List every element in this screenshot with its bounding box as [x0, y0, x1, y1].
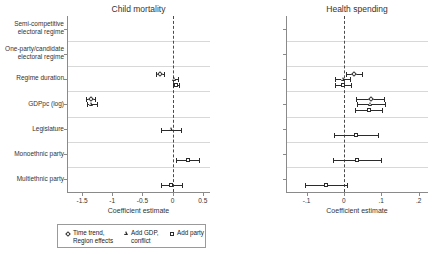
triangle-marker-icon [368, 102, 372, 106]
y-axis-line [286, 16, 287, 192]
confidence-interval-cap [181, 128, 182, 133]
category-label-1: One-party/candidate electoral regime [0, 45, 64, 61]
square-marker-icon [341, 83, 345, 87]
y-tick [64, 79, 67, 80]
confidence-interval-cap [346, 72, 347, 77]
square-marker-icon [354, 133, 358, 137]
triangle-marker-icon [169, 127, 173, 131]
x-tick [203, 193, 204, 196]
plot-area-child-mortality: -1.5-1-0.500.5 [67, 16, 210, 192]
xaxis-title-right: Coefficient estimate [286, 207, 428, 214]
confidence-interval-cap [384, 97, 385, 102]
x-tick [381, 193, 382, 196]
y-axis-line [67, 16, 68, 192]
category-label-3: GDPpc (log) [0, 100, 64, 108]
gridline [286, 66, 428, 67]
confidence-interval-cap [335, 77, 336, 82]
gridline [286, 41, 428, 42]
legend-label-0: Time trend, Region effects [73, 229, 113, 245]
legend-label-1: Add GDP, conflict [131, 229, 159, 245]
confidence-interval-cap [95, 97, 96, 102]
x-tick-label: -1.5 [67, 197, 97, 204]
confidence-interval-cap [357, 102, 358, 107]
y-tick [283, 129, 286, 130]
diamond-marker-icon [65, 231, 71, 237]
category-label-5: Monoethnic party [0, 150, 64, 158]
y-tick [64, 154, 67, 155]
diamond-marker-icon [352, 71, 358, 77]
square-marker-icon [174, 83, 178, 87]
square-marker-icon [355, 158, 359, 162]
y-tick [64, 129, 67, 130]
panel-title-right: Health spending [286, 4, 428, 14]
zero-reference-line [173, 16, 174, 192]
confidence-interval-cap [161, 128, 162, 133]
gridline [67, 41, 210, 42]
square-marker-icon [170, 232, 174, 236]
zero-reference-line [344, 16, 345, 192]
diamond-marker-icon [88, 96, 94, 102]
confidence-interval-cap [334, 133, 335, 138]
confidence-interval-cap [179, 83, 180, 88]
x-tick [112, 193, 113, 196]
y-tick [64, 54, 67, 55]
confidence-interval-cap [305, 183, 306, 188]
triangle-marker-icon [89, 102, 93, 106]
gridline [67, 167, 210, 168]
y-tick [283, 79, 286, 80]
confidence-interval-cap [351, 83, 352, 88]
gridline [67, 117, 210, 118]
confidence-interval-cap [355, 108, 356, 113]
y-tick [283, 29, 286, 30]
square-marker-icon [324, 183, 328, 187]
confidence-interval-cap [199, 158, 200, 163]
confidence-interval-cap [86, 97, 87, 102]
confidence-interval-cap [385, 102, 386, 107]
x-tick [419, 193, 420, 196]
x-tick-label: -0.5 [127, 197, 157, 204]
x-tick-label: .2 [404, 197, 432, 204]
gridline [67, 142, 210, 143]
triangle-marker-icon [341, 77, 345, 81]
triangle-marker-icon [172, 77, 176, 81]
x-tick [142, 193, 143, 196]
x-tick-label: .1 [366, 197, 396, 204]
confidence-interval-cap [87, 102, 88, 107]
confidence-interval-cap [350, 77, 351, 82]
confidence-interval-cap [161, 183, 162, 188]
diamond-marker-icon [157, 71, 163, 77]
gridline [286, 91, 428, 92]
x-tick-label: 0 [158, 197, 188, 204]
category-label-2: Regime duration [0, 74, 64, 82]
confidence-interval-cap [182, 183, 183, 188]
confidence-interval-cap [382, 108, 383, 113]
gridline [67, 91, 210, 92]
x-tick [344, 193, 345, 196]
confidence-interval-cap [164, 72, 165, 77]
x-tick [82, 193, 83, 196]
plot-area-health-spending: -.10.1.2 [286, 16, 428, 192]
confidence-interval-cap [333, 158, 334, 163]
legend-label-2: Add party [177, 229, 204, 237]
confidence-interval-cap [347, 183, 348, 188]
y-tick [64, 29, 67, 30]
x-tick-label: -.1 [292, 197, 322, 204]
panel-title-left: Child mortality [67, 4, 210, 14]
square-marker-icon [186, 158, 190, 162]
y-tick [283, 104, 286, 105]
y-tick [64, 179, 67, 180]
gridline [286, 167, 428, 168]
square-marker-icon [169, 183, 173, 187]
gridline [286, 142, 428, 143]
y-tick [283, 54, 286, 55]
category-label-0: Semi-competitive electoral regime [0, 20, 64, 36]
confidence-interval-cap [378, 133, 379, 138]
y-tick [283, 179, 286, 180]
x-tick-label: 0 [329, 197, 359, 204]
coefficient-plot-figure: Child mortality Health spending -1.5-1-0… [0, 0, 432, 254]
gridline [286, 117, 428, 118]
confidence-interval-cap [362, 72, 363, 77]
confidence-interval-cap [176, 158, 177, 163]
confidence-interval-cap [381, 158, 382, 163]
category-label-6: Multiethnic party [0, 175, 64, 183]
